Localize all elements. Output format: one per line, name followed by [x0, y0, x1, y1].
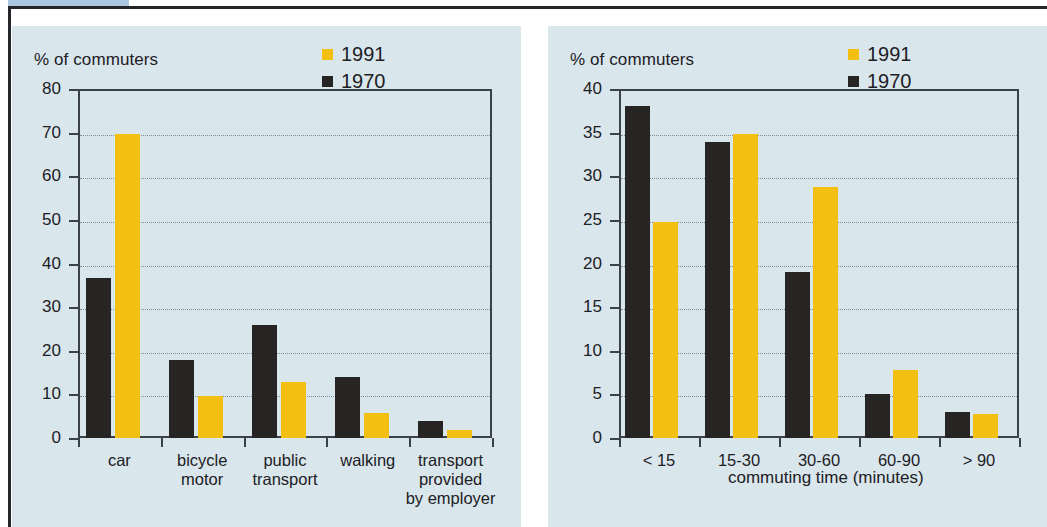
bar-1970-2: [785, 272, 810, 438]
y-tick-label: 5: [562, 384, 602, 404]
y-tick-label: 40: [21, 254, 61, 274]
bar-1991-2: [813, 187, 838, 438]
legend-swatch-1991: [322, 49, 333, 60]
y-tick-mark: [610, 264, 619, 266]
y-tick-label: 30: [562, 166, 602, 186]
figure-page: % of commuters80706050403020100carbicycl…: [0, 0, 1047, 527]
y-tick-label: 30: [21, 297, 61, 317]
chart-legend: 19911970: [322, 42, 386, 93]
bar-1970-3: [865, 394, 890, 438]
gridline: [80, 135, 490, 136]
chart-legend: 19911970: [848, 42, 912, 93]
left-rule-divider: [8, 6, 11, 527]
bar-1991-3: [893, 370, 918, 438]
x-tick-mark: [492, 438, 494, 447]
x-tick-mark: [244, 438, 246, 447]
y-tick-mark: [610, 307, 619, 309]
x-axis-title: commuting time (minutes): [728, 468, 924, 488]
y-tick-mark: [610, 394, 619, 396]
legend-label-1970: 1970: [867, 71, 912, 91]
y-tick-mark: [610, 133, 619, 135]
legend-swatch-1970: [322, 76, 333, 87]
y-axis-title: % of commuters: [570, 50, 694, 70]
y-tick-label: 20: [562, 254, 602, 274]
bar-1970-2: [252, 325, 277, 438]
x-tick-mark: [699, 438, 701, 447]
bar-1970-4: [418, 421, 443, 438]
x-tick-mark: [859, 438, 861, 447]
legend-item-1991: 1991: [322, 42, 386, 66]
x-tick-mark: [1019, 438, 1021, 447]
y-tick-mark: [610, 438, 619, 440]
y-tick-label: 10: [21, 384, 61, 404]
gridline: [80, 266, 490, 267]
legend-label-1991: 1991: [867, 44, 912, 64]
bar-1991-0: [653, 222, 678, 438]
bar-1991-1: [733, 134, 758, 438]
x-tick-label: > 90: [927, 451, 1031, 470]
bar-1991-0: [115, 134, 140, 438]
y-tick-mark: [69, 264, 78, 266]
y-tick-mark: [69, 176, 78, 178]
y-tick-mark: [69, 394, 78, 396]
y-tick-label: 60: [21, 166, 61, 186]
gridline: [621, 178, 1017, 179]
x-tick-mark: [78, 438, 80, 447]
bar-1970-4: [945, 412, 970, 438]
legend-label-1970: 1970: [341, 71, 386, 91]
chart-panel-commuting-time: % of commuters4035302520151050< 1515-303…: [548, 26, 1047, 527]
legend-item-1991: 1991: [848, 42, 912, 66]
y-tick-label: 15: [562, 297, 602, 317]
legend-swatch-1991: [848, 49, 859, 60]
legend-item-1970: 1970: [322, 69, 386, 93]
bar-1991-1: [198, 396, 223, 438]
y-tick-label: 10: [562, 341, 602, 361]
gridline: [80, 222, 490, 223]
y-tick-mark: [69, 89, 78, 91]
y-tick-mark: [610, 89, 619, 91]
y-tick-label: 25: [562, 210, 602, 230]
y-tick-mark: [69, 351, 78, 353]
y-tick-label: 80: [21, 79, 61, 99]
y-tick-mark: [69, 307, 78, 309]
bar-1970-0: [86, 278, 111, 438]
bar-1991-2: [281, 382, 306, 438]
legend-item-1970: 1970: [848, 69, 912, 93]
y-tick-mark: [69, 438, 78, 440]
bar-1970-0: [625, 106, 650, 438]
y-tick-label: 35: [562, 123, 602, 143]
y-tick-mark: [69, 220, 78, 222]
y-tick-mark: [610, 220, 619, 222]
y-tick-label: 50: [21, 210, 61, 230]
y-tick-label: 0: [21, 428, 61, 448]
y-tick-label: 0: [562, 428, 602, 448]
bar-1991-4: [447, 430, 472, 438]
gridline: [80, 178, 490, 179]
top-rule-divider: [8, 6, 1047, 9]
bar-1970-1: [705, 142, 730, 438]
gridline: [80, 353, 490, 354]
legend-label-1991: 1991: [341, 44, 386, 64]
bar-1970-1: [169, 360, 194, 438]
bar-1991-4: [973, 414, 998, 438]
y-tick-label: 20: [21, 341, 61, 361]
x-tick-mark: [409, 438, 411, 447]
y-tick-label: 70: [21, 123, 61, 143]
legend-swatch-1970: [848, 76, 859, 87]
y-tick-label: 40: [562, 79, 602, 99]
bar-1991-3: [364, 413, 389, 438]
y-tick-mark: [69, 133, 78, 135]
y-tick-mark: [610, 351, 619, 353]
bar-1970-3: [335, 377, 360, 438]
chart-panel-mode-of-transport: % of commuters80706050403020100carbicycl…: [12, 26, 521, 527]
x-tick-label: transport provided by employer: [397, 451, 504, 508]
y-tick-mark: [610, 176, 619, 178]
gridline: [80, 309, 490, 310]
x-tick-mark: [619, 438, 621, 447]
y-axis-title: % of commuters: [34, 50, 158, 70]
x-tick-mark: [161, 438, 163, 447]
x-tick-mark: [326, 438, 328, 447]
x-tick-mark: [939, 438, 941, 447]
x-tick-mark: [779, 438, 781, 447]
gridline: [621, 135, 1017, 136]
